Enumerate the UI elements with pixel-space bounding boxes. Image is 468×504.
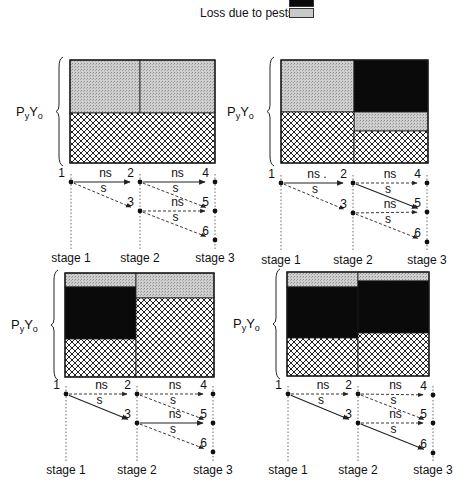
node-5: [425, 210, 430, 215]
node-6: [431, 451, 436, 456]
node-label: 1: [268, 167, 275, 181]
stage-label: stage 3: [413, 463, 453, 477]
decision-tree: stage 1stage 2stage 3nssnssnss123456: [46, 378, 233, 477]
node-2: [138, 180, 143, 185]
region-stipple: [287, 272, 358, 287]
node-label: 6: [414, 226, 421, 240]
node-3: [351, 211, 356, 216]
node-label: 4: [200, 378, 207, 392]
node-3: [135, 421, 140, 426]
stage-label: stage 2: [120, 251, 160, 265]
edge-label: s: [391, 422, 397, 436]
stage-label: stage 1: [51, 251, 91, 265]
stage-label: stage 2: [333, 253, 373, 267]
stage-label: stage 3: [195, 251, 235, 265]
stage-label: stage 1: [46, 463, 86, 477]
node-label: 2: [124, 378, 131, 392]
node-label: 4: [414, 167, 421, 181]
edge-label: s: [385, 212, 391, 226]
decision-tree: stage 1stage 2stage 3nssnssnss123456: [51, 166, 235, 265]
node-label: 1: [53, 378, 60, 392]
node-3: [356, 421, 361, 426]
node-6: [425, 240, 430, 245]
region-stipple: [65, 273, 136, 287]
region-stipple: [140, 60, 215, 113]
node-4: [425, 181, 430, 186]
y-axis-label: PyYo: [227, 104, 254, 121]
decision-tree: stage 1stage 2stage 3nssnssnss123456: [268, 378, 453, 477]
edge-label: ns: [169, 378, 182, 392]
edge-label: ns: [99, 166, 112, 180]
brace-icon: [267, 57, 274, 166]
brace-icon: [273, 269, 280, 379]
node-label: 5: [200, 407, 207, 421]
stage-label: stage 2: [338, 463, 378, 477]
node-4: [211, 392, 216, 397]
region-black: [354, 60, 428, 112]
edge-label: ns: [384, 197, 397, 211]
region-hatch: [70, 113, 215, 163]
stage-label: stage 1: [268, 463, 308, 477]
region-black: [287, 287, 358, 338]
edge-label: ns: [95, 378, 108, 392]
edge-label: ns: [171, 166, 184, 180]
edge-label: s: [385, 182, 391, 196]
edge-label: s: [170, 422, 176, 436]
region-stipple: [70, 60, 140, 113]
node-1: [64, 392, 69, 397]
node-label: 3: [345, 407, 352, 421]
node-label: 5: [414, 196, 421, 210]
brace-icon: [51, 270, 58, 380]
edge-label: ns: [169, 407, 182, 421]
stage-label: stage 1: [261, 253, 301, 267]
pest-loss-diagram: PyYostage 1stage 2stage 3nssnssnss123456…: [0, 0, 468, 504]
edge-label: s: [173, 210, 179, 224]
node-label: 1: [58, 166, 65, 180]
node-label: 1: [275, 378, 282, 392]
node-3: [138, 209, 143, 214]
node-label: 6: [202, 224, 209, 238]
y-axis-label: PyYo: [11, 317, 38, 334]
node-label: 5: [202, 195, 209, 209]
node-label: 3: [127, 195, 134, 209]
region-hatch: [358, 333, 429, 376]
node-label: 5: [420, 407, 427, 421]
node-label: 3: [124, 407, 131, 421]
edge-label: s: [312, 182, 318, 196]
node-2: [351, 181, 356, 186]
region-stipple: [354, 112, 428, 131]
node-label: 4: [420, 379, 427, 393]
edge-label: ns: [389, 378, 402, 392]
node-5: [213, 209, 218, 214]
stage-label: stage 3: [407, 253, 447, 267]
edge-label: ns .: [307, 167, 326, 181]
region-hatch: [281, 112, 354, 163]
brace-icon: [56, 57, 63, 166]
edge-label: s: [170, 393, 176, 407]
panel-bottom-left: PyYostage 1stage 2stage 3nssnssnss123456: [11, 270, 233, 477]
node-label: 6: [200, 436, 207, 450]
panels-group: PyYostage 1stage 2stage 3nssnssnss123456…: [11, 57, 453, 477]
node-6: [211, 450, 216, 455]
panel-bottom-right: PyYostage 1stage 2stage 3nssnssnss123456: [233, 269, 453, 477]
node-6: [213, 238, 218, 243]
edge-label: s: [173, 181, 179, 195]
edge-label: s: [391, 393, 397, 407]
node-label: 2: [345, 378, 352, 392]
node-1: [69, 180, 74, 185]
region-black: [65, 287, 136, 339]
node-4: [213, 180, 218, 185]
y-axis-label: PyYo: [233, 316, 260, 333]
node-1: [286, 392, 291, 397]
region-hatch: [354, 131, 428, 163]
node-label: 4: [202, 166, 209, 180]
region-stipple: [136, 273, 214, 298]
edge-label: s: [97, 393, 103, 407]
stage-label: stage 2: [117, 463, 157, 477]
edge-label: ns: [317, 378, 330, 392]
node-label: 3: [340, 197, 347, 211]
region-stipple: [358, 272, 429, 281]
edge-label: s: [101, 181, 107, 195]
region-hatch: [65, 339, 136, 377]
region-hatch: [136, 298, 214, 377]
